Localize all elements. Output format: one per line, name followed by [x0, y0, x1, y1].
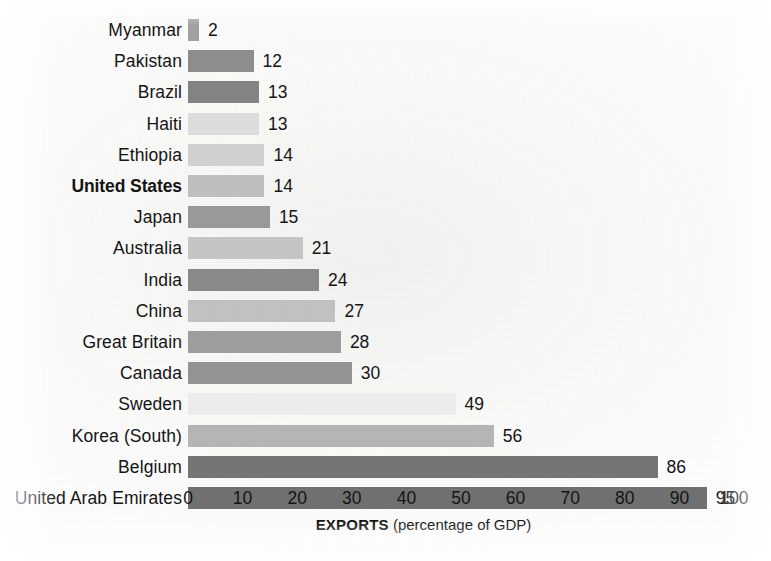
bar-row: Ethiopia14 [0, 144, 771, 166]
bar-value-label: 24 [328, 269, 347, 291]
x-axis: 0102030405060708090100 [0, 487, 771, 513]
bar-chart-plot-area: Myanmar2Pakistan12Brazil13Haiti13Ethiopi… [0, 0, 771, 561]
bar-category-label: Korea (South) [72, 425, 182, 447]
bar-row: Sweden49 [0, 393, 771, 415]
bar-row: China27 [0, 300, 771, 322]
x-axis-tick-label: 30 [342, 487, 361, 509]
bar [188, 113, 259, 135]
x-axis-tick-label: 90 [670, 487, 689, 509]
bar-value-label: 12 [263, 50, 282, 72]
bar-category-label: Sweden [118, 393, 182, 415]
bar-category-label: India [144, 269, 182, 291]
bar-row: United States14 [0, 175, 771, 197]
chart-page: Myanmar2Pakistan12Brazil13Haiti13Ethiopi… [0, 0, 771, 561]
bar-value-label: 15 [279, 206, 298, 228]
bar [188, 331, 341, 353]
x-axis-tick-label: 40 [397, 487, 416, 509]
bar-category-label: Pakistan [114, 50, 182, 72]
x-axis-tick-label: 80 [615, 487, 634, 509]
bar-category-label: Belgium [118, 456, 182, 478]
bar-value-label: 2 [208, 19, 218, 41]
x-axis-tick-label: 20 [287, 487, 306, 509]
bar-category-label: Brazil [138, 81, 182, 103]
bar [188, 50, 254, 72]
bar-value-label: 14 [273, 175, 292, 197]
bar [188, 456, 658, 478]
bar-row: Australia21 [0, 237, 771, 259]
bar-value-label: 13 [268, 81, 287, 103]
bar-category-label: Myanmar [108, 19, 182, 41]
bar-category-label: Haiti [146, 113, 182, 135]
bar [188, 362, 352, 384]
bar [188, 237, 303, 259]
x-axis-title-note: (percentage of GDP) [393, 516, 531, 533]
x-axis-tick-label: 10 [233, 487, 252, 509]
bar-category-label: Canada [120, 362, 182, 384]
bar-category-label: Great Britain [82, 331, 182, 353]
bar-value-label: 27 [344, 300, 363, 322]
bar [188, 81, 259, 103]
bar-row: Korea (South)56 [0, 425, 771, 447]
bar [188, 393, 456, 415]
bar-category-label: United States [71, 175, 182, 197]
bar-value-label: 13 [268, 113, 287, 135]
x-axis-tick-label: 100 [719, 487, 748, 509]
bar-category-label: Australia [113, 237, 182, 259]
x-axis-tick-label: 0 [183, 487, 193, 509]
bar [188, 175, 264, 197]
bar-row: Belgium86 [0, 456, 771, 478]
bar [188, 206, 270, 228]
bar-row: Canada30 [0, 362, 771, 384]
bar-value-label: 30 [361, 362, 380, 384]
bar-category-label: Ethiopia [118, 144, 182, 166]
bar-row: Japan15 [0, 206, 771, 228]
bar-row: India24 [0, 269, 771, 291]
bar-row: Haiti13 [0, 113, 771, 135]
bar-value-label: 21 [312, 237, 331, 259]
x-axis-title: EXPORTS (percentage of GDP) [0, 515, 771, 535]
bar [188, 425, 494, 447]
x-axis-title-bold: EXPORTS [316, 516, 389, 533]
bar [188, 300, 335, 322]
bar [188, 144, 264, 166]
bar-value-label: 86 [667, 456, 686, 478]
bar-value-label: 56 [503, 425, 522, 447]
bar-category-label: China [136, 300, 182, 322]
x-axis-tick-label: 60 [506, 487, 525, 509]
bar-row: Great Britain28 [0, 331, 771, 353]
bar-value-label: 14 [273, 144, 292, 166]
x-axis-tick-label: 70 [560, 487, 579, 509]
bar-value-label: 49 [465, 393, 484, 415]
bar-row: Myanmar2 [0, 19, 771, 41]
bar-row: Pakistan12 [0, 50, 771, 72]
bar-row: Brazil13 [0, 81, 771, 103]
bar [188, 19, 199, 41]
bar [188, 269, 319, 291]
bar-value-label: 28 [350, 331, 369, 353]
bar-category-label: Japan [134, 206, 182, 228]
x-axis-tick-label: 50 [451, 487, 470, 509]
